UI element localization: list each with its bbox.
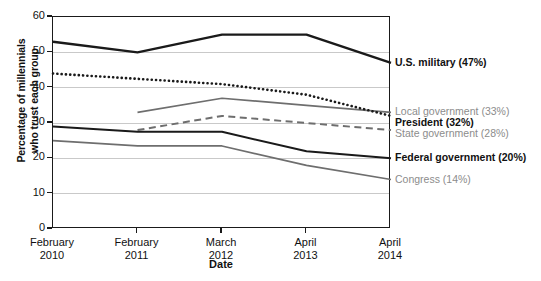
y-tick-label: 50 (15, 44, 45, 56)
series-label-state-government: State government (28%) (395, 127, 509, 139)
y-tick-label: 40 (15, 80, 45, 92)
y-tick-label: 10 (15, 186, 45, 198)
series-line (53, 35, 391, 63)
y-tick-label: 20 (15, 150, 45, 162)
y-tick-label: 0 (15, 221, 45, 233)
y-tick-label: 30 (15, 115, 45, 127)
series-line (53, 127, 391, 159)
x-tick-label-month: April (261, 236, 351, 249)
series-line (53, 141, 391, 180)
series-line (138, 116, 392, 130)
y-tick-label: 60 (15, 9, 45, 21)
x-tick-label-month: February (92, 236, 182, 249)
series-line (138, 98, 392, 112)
x-tick-label-month: February (7, 236, 97, 249)
x-tick-label-month: March (176, 236, 266, 249)
series-lines (53, 17, 391, 229)
series-line (53, 74, 391, 116)
x-tick-label-month: April (345, 236, 435, 249)
chart-container: Percentage of millennials who trust each… (0, 0, 541, 281)
x-axis-title: Date (52, 258, 390, 270)
series-label-congress: Congress (14%) (395, 173, 471, 185)
series-label-federal-government: Federal government (20%) (395, 151, 526, 163)
series-label-u-s-military: U.S. military (47%) (395, 56, 487, 68)
plot-area (52, 16, 390, 228)
